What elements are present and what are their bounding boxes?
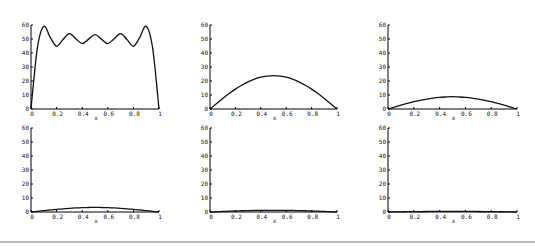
x-tick-label: 1 (516, 213, 520, 220)
x-tick-label: 0.4 (435, 213, 446, 220)
y-tick-label: 60 (201, 124, 209, 131)
x-tick-label: 0 (387, 213, 391, 220)
y-tick-label: 50 (379, 138, 387, 145)
x-axis-label: x (452, 217, 456, 224)
y-tick-label: 30 (201, 63, 209, 70)
y-tick-label: 40 (22, 152, 30, 159)
y-tick-label: 20 (22, 180, 30, 187)
x-tick-label: 0 (209, 110, 213, 117)
y-tick-label: 10 (379, 194, 387, 201)
y-tick-label: 10 (22, 91, 30, 98)
y-tick-label: 10 (379, 91, 387, 98)
series-line-u (31, 26, 159, 109)
y-tick-label: 20 (379, 180, 387, 187)
y-tick-label: 40 (201, 152, 209, 159)
x-tick-label: 0.4 (78, 213, 89, 220)
y-tick-label: 40 (379, 152, 387, 159)
x-tick-label: 0.8 (487, 110, 498, 117)
x-tick-label: 0.8 (307, 110, 318, 117)
x-tick-label: 0.2 (52, 213, 63, 220)
y-tick-label: 60 (22, 124, 30, 131)
x-tick-label: 0.8 (307, 213, 318, 220)
x-tick-label: 0 (387, 110, 391, 117)
y-tick-label: 20 (201, 77, 209, 84)
panel-bottom-middle: 010203040506000.20.40.60.81x (201, 124, 340, 224)
y-tick-label: 60 (201, 21, 209, 28)
x-tick-label: 0.2 (52, 110, 63, 117)
y-tick-label: 10 (22, 194, 30, 201)
x-tick-label: 1 (336, 213, 340, 220)
series-line-u (388, 211, 517, 212)
x-tick-label: 0.6 (461, 213, 472, 220)
y-tick-label: 40 (379, 49, 387, 56)
panel-bottom-right: 010203040506000.20.40.60.81x (379, 124, 520, 224)
x-tick-label: 0.6 (282, 110, 293, 117)
y-tick-label: 0 (382, 208, 386, 215)
panel-bottom-left: 010203040506000.20.40.60.81x (22, 124, 162, 224)
y-tick-label: 20 (379, 77, 387, 84)
y-tick-label: 60 (22, 21, 30, 28)
y-tick-label: 50 (22, 35, 30, 42)
figure: 010203040506000.20.40.60.81x010203040506… (0, 0, 535, 247)
y-tick-label: 20 (201, 180, 209, 187)
panel-top-left: 010203040506000.20.40.60.81x (22, 21, 162, 121)
x-axis-label: x (94, 217, 98, 224)
x-tick-label: 0.2 (409, 213, 420, 220)
y-tick-label: 60 (379, 21, 387, 28)
x-tick-label: 0.2 (409, 110, 420, 117)
series-line-u (210, 76, 337, 109)
y-tick-label: 50 (201, 35, 209, 42)
x-tick-label: 0 (30, 213, 34, 220)
series-line-u (388, 97, 517, 109)
x-tick-label: 0.2 (231, 110, 242, 117)
y-tick-label: 30 (379, 63, 387, 70)
y-tick-label: 10 (201, 194, 209, 201)
x-axis-label: x (452, 114, 456, 121)
x-tick-label: 0.6 (103, 213, 114, 220)
x-tick-label: 0.8 (129, 213, 140, 220)
y-tick-label: 0 (25, 208, 29, 215)
y-tick-label: 40 (201, 49, 209, 56)
y-tick-label: 40 (22, 49, 30, 56)
y-tick-label: 50 (379, 35, 387, 42)
x-tick-label: 0 (30, 110, 34, 117)
x-tick-label: 0.2 (231, 213, 242, 220)
y-tick-label: 0 (382, 105, 386, 112)
y-tick-label: 20 (22, 77, 30, 84)
y-tick-label: 50 (201, 138, 209, 145)
x-tick-label: 0.8 (129, 110, 140, 117)
x-tick-label: 0.8 (487, 213, 498, 220)
series-line-u (31, 207, 159, 212)
x-tick-label: 0.4 (256, 110, 267, 117)
panel-top-middle: 010203040506000.20.40.60.81x (201, 21, 340, 121)
bottom-divider (0, 241, 535, 243)
x-axis-label: x (273, 217, 277, 224)
y-tick-label: 0 (25, 105, 29, 112)
x-tick-label: 0.6 (461, 110, 472, 117)
x-tick-label: 0.4 (256, 213, 267, 220)
y-tick-label: 10 (201, 91, 209, 98)
x-axis-label: x (273, 114, 277, 121)
y-tick-label: 50 (22, 138, 30, 145)
x-tick-label: 1 (336, 110, 340, 117)
x-tick-label: 0.4 (435, 110, 446, 117)
x-tick-label: 0.4 (78, 110, 89, 117)
x-axis-label: x (94, 114, 98, 121)
y-tick-label: 30 (201, 166, 209, 173)
y-tick-label: 30 (379, 166, 387, 173)
panel-top-right: 010203040506000.20.40.60.81x (379, 21, 520, 121)
x-tick-label: 0.6 (282, 213, 293, 220)
x-tick-label: 1 (158, 213, 162, 220)
y-tick-label: 60 (379, 124, 387, 131)
y-tick-label: 0 (204, 105, 208, 112)
x-tick-label: 1 (516, 110, 520, 117)
y-tick-label: 30 (22, 166, 30, 173)
x-tick-label: 1 (158, 110, 162, 117)
x-tick-label: 0.6 (103, 110, 114, 117)
y-tick-label: 0 (204, 208, 208, 215)
y-tick-label: 30 (22, 63, 30, 70)
x-tick-label: 0 (209, 213, 213, 220)
